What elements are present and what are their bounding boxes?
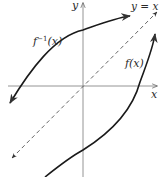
- inverse-function-diagram: y x y = x f−1(x) f(x): [0, 0, 162, 177]
- y-axis-label: y: [72, 0, 78, 11]
- identity-line-label: y = x: [131, 1, 158, 12]
- diagram-canvas: [0, 0, 162, 177]
- function-label: f(x): [125, 58, 144, 69]
- identity-line: [12, 12, 157, 158]
- inverse-label-arg: (x): [47, 35, 62, 48]
- inverse-function-curve: [10, 16, 130, 103]
- function-curve: [45, 34, 155, 177]
- x-axis-label: x: [151, 89, 157, 100]
- inverse-function-label: f−1(x): [33, 36, 62, 47]
- inverse-label-exponent: −1: [37, 35, 47, 43]
